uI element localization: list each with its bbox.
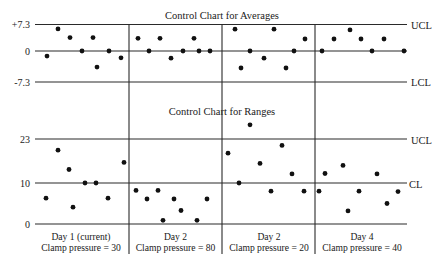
ranges-data-point <box>357 189 362 194</box>
ranges-data-point <box>205 197 210 202</box>
ranges-data-point <box>161 218 166 223</box>
ranges-tick-center: 10 <box>20 178 30 189</box>
ranges-data-point <box>258 161 263 166</box>
averages-tick-lower: -7.3 <box>14 77 30 88</box>
averages-data-point <box>56 27 61 32</box>
ranges-tick-upper: 23 <box>20 134 30 145</box>
ranges-data-point <box>156 188 161 193</box>
ranges-data-point <box>172 197 177 202</box>
averages-data-points <box>45 27 407 71</box>
ranges-data-point <box>195 218 200 223</box>
averages-data-point <box>402 49 407 54</box>
day-2b-condition: Clamp pressure = 20 <box>229 242 309 253</box>
ranges-data-point <box>280 143 285 148</box>
control-charts-figure: Control Chart for Averages +7.3 0 -7.3 U… <box>0 0 443 267</box>
averages-data-point <box>382 37 387 42</box>
ranges-data-point <box>323 171 328 176</box>
averages-data-point <box>262 56 267 61</box>
ranges-data-point <box>385 201 390 206</box>
averages-data-point <box>359 37 364 42</box>
averages-data-point <box>158 36 163 41</box>
day-4-label: Day 4 <box>350 231 373 242</box>
ranges-data-point <box>71 205 76 210</box>
ranges-data-point <box>317 189 322 194</box>
ranges-data-point <box>346 209 351 214</box>
ranges-data-point <box>67 167 72 172</box>
ranges-data-point <box>179 208 184 213</box>
averages-data-point <box>272 27 277 32</box>
ranges-data-point <box>237 181 242 186</box>
averages-data-point <box>284 66 289 71</box>
averages-data-point <box>303 37 308 42</box>
averages-data-point <box>248 49 253 54</box>
ranges-data-point <box>44 196 49 201</box>
ranges-data-point <box>145 197 150 202</box>
averages-tick-upper: +7.3 <box>12 19 30 30</box>
day-2b-label: Day 2 <box>257 231 280 242</box>
averages-data-point <box>332 37 337 42</box>
averages-data-point <box>80 49 85 54</box>
day-2-label: Day 2 <box>164 231 187 242</box>
day-2-condition: Clamp pressure = 80 <box>136 242 216 253</box>
averages-chart-title: Control Chart for Averages <box>165 10 279 21</box>
ranges-ucl-label: UCL <box>411 135 432 146</box>
ranges-data-point <box>290 172 295 177</box>
ranges-data-point <box>302 189 307 194</box>
averages-data-point <box>107 49 112 54</box>
averages-tick-center: 0 <box>25 46 30 57</box>
averages-data-point <box>181 49 186 54</box>
averages-data-point <box>370 49 375 54</box>
averages-data-point <box>136 36 141 41</box>
ranges-data-point <box>94 181 99 186</box>
averages-data-point <box>95 65 100 70</box>
ranges-data-point <box>248 122 253 127</box>
ranges-tick-zero: 0 <box>25 219 30 230</box>
averages-lcl-label: LCL <box>411 77 431 88</box>
averages-data-point <box>197 49 202 54</box>
ranges-data-point <box>375 172 380 177</box>
ranges-data-point <box>396 189 401 194</box>
ranges-data-point <box>83 181 88 186</box>
averages-data-point <box>348 28 353 33</box>
averages-data-point <box>192 36 197 41</box>
ranges-cl-label: CL <box>409 179 422 190</box>
ranges-data-point <box>106 196 111 201</box>
averages-data-point <box>292 49 297 54</box>
ranges-chart: Control Chart for Ranges 23 10 0 UCL CL <box>20 106 432 230</box>
averages-data-point <box>233 27 238 32</box>
averages-ucl-label: UCL <box>411 20 432 31</box>
averages-data-point <box>239 66 244 71</box>
ranges-data-point <box>122 160 127 165</box>
averages-data-point <box>68 35 73 40</box>
averages-data-point <box>147 49 152 54</box>
day-1-condition: Clamp pressure = 30 <box>41 242 121 253</box>
averages-data-point <box>169 56 174 61</box>
averages-data-point <box>208 49 213 54</box>
ranges-data-point <box>56 148 61 153</box>
averages-data-point <box>320 49 325 54</box>
averages-data-point <box>45 54 50 59</box>
control-charts-svg: Control Chart for Averages +7.3 0 -7.3 U… <box>0 0 443 267</box>
ranges-data-point <box>341 163 346 168</box>
averages-data-point <box>91 35 96 40</box>
ranges-data-point <box>226 151 231 156</box>
averages-data-point <box>119 55 124 60</box>
ranges-data-point <box>134 188 139 193</box>
ranges-data-point <box>269 189 274 194</box>
day-4-condition: Clamp pressure = 40 <box>322 242 402 253</box>
